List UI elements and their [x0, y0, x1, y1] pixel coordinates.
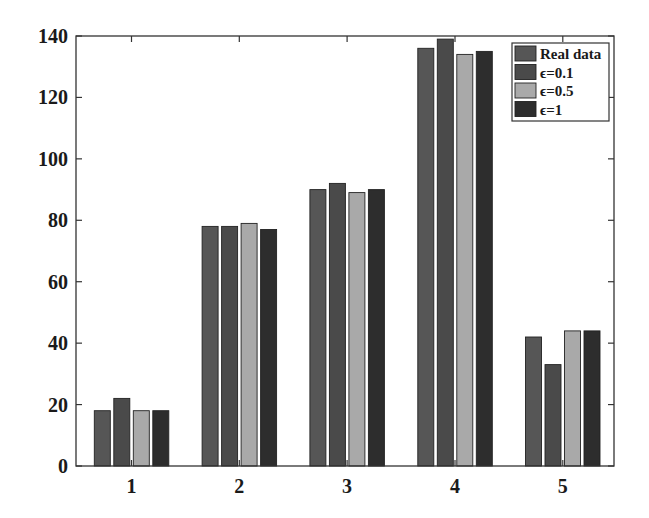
bar — [565, 331, 581, 466]
legend-swatch — [515, 83, 536, 98]
y-tick-label: 0 — [58, 455, 68, 477]
y-tick-label: 60 — [48, 271, 68, 293]
x-tick-label: 1 — [127, 475, 137, 497]
bar — [584, 331, 600, 466]
bar-group-5 — [526, 331, 601, 466]
bar-group-2 — [202, 223, 277, 466]
legend-label: ϵ=0.5 — [540, 83, 574, 99]
legend-label: ϵ=0.1 — [540, 65, 574, 81]
bar — [241, 223, 257, 466]
bar — [202, 226, 218, 466]
bar — [545, 365, 561, 466]
legend-swatch — [515, 46, 536, 61]
bar — [114, 398, 130, 466]
y-tick-label: 100 — [38, 148, 68, 170]
bar-group-3 — [310, 183, 385, 466]
bar-group-4 — [418, 39, 493, 466]
x-tick-label: 5 — [558, 475, 568, 497]
bar — [349, 193, 365, 466]
legend-label: Real data — [540, 46, 602, 62]
y-tick-label: 120 — [38, 86, 68, 108]
grouped-bar-chart: 020406080100120140 12345 Real dataϵ=0.1ϵ… — [0, 0, 649, 518]
bar — [329, 183, 345, 466]
bar — [368, 190, 384, 466]
bar — [261, 230, 277, 467]
y-tick-label: 140 — [38, 25, 68, 47]
bar — [153, 411, 169, 466]
bar-group-1 — [94, 398, 169, 466]
y-tick-label: 20 — [48, 394, 68, 416]
bar — [418, 48, 434, 466]
bar — [476, 51, 492, 466]
bar — [526, 337, 542, 466]
x-tick-label: 2 — [234, 475, 244, 497]
bar — [457, 54, 473, 466]
x-tick-label: 3 — [342, 475, 352, 497]
y-tick-label: 40 — [48, 332, 68, 354]
bar — [437, 39, 453, 466]
bar — [310, 190, 326, 466]
x-tick-label: 4 — [450, 475, 460, 497]
y-tick-label: 80 — [48, 209, 68, 231]
legend-swatch — [515, 65, 536, 80]
bar — [94, 411, 110, 466]
legend: Real dataϵ=0.1ϵ=0.5ϵ=1 — [512, 43, 609, 121]
legend-label: ϵ=1 — [540, 102, 562, 118]
x-axis: 12345 — [127, 36, 568, 497]
legend-swatch — [515, 102, 536, 117]
bar — [222, 226, 238, 466]
bar — [133, 411, 149, 466]
